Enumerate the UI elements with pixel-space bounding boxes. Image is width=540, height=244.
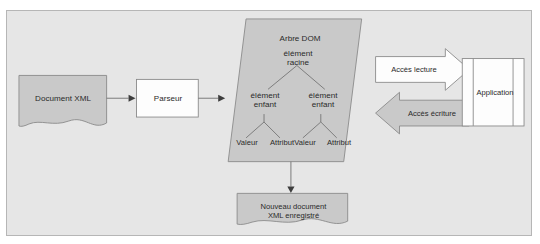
dom-tree-shape <box>228 19 361 162</box>
source-document-shape <box>19 75 107 126</box>
write-access-arrow-shape <box>376 92 470 134</box>
read-access-arrow-shape <box>376 49 470 91</box>
application-shape <box>462 59 524 126</box>
arrow-parser-to-tree <box>198 95 225 102</box>
arrow-tree-to-output <box>287 162 294 193</box>
diagram-frame: Document XML Parseur Arbre DOM élément r… <box>6 10 532 236</box>
output-document-shape <box>237 193 348 224</box>
parser-shape <box>137 79 199 117</box>
arrow-doc-to-parser <box>107 95 136 102</box>
diagram-canvas <box>7 11 531 235</box>
